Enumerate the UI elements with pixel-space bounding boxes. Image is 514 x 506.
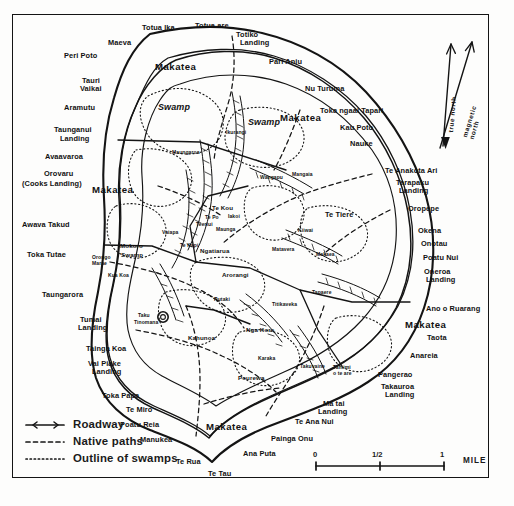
place-label: Landing: [385, 391, 414, 399]
place-label: Aramutu: [64, 104, 95, 112]
scale-tick-1: 1: [440, 450, 444, 459]
region-label: Makatea: [155, 62, 196, 72]
region-label: Makatea: [92, 185, 133, 195]
place-label: Nauke: [350, 140, 373, 148]
place-label: Te Tau: [208, 470, 231, 478]
place-label: Kua Koa: [108, 273, 129, 278]
place-label: Matavera: [272, 247, 294, 252]
place-label: Landing: [426, 276, 455, 284]
place-label: Te Miro: [126, 406, 152, 414]
place-label: Landing: [399, 187, 428, 195]
place-label: Toka Papa: [102, 392, 139, 400]
place-label: Taota: [427, 334, 447, 342]
place-label: Te Anakota Ari: [385, 167, 437, 175]
place-label: Ano o Ruarang: [426, 305, 480, 313]
legend-item-roadway: Roadway: [26, 415, 178, 432]
place-label: Maungaroa: [172, 150, 200, 155]
place-label: Ngatiarua: [200, 248, 229, 255]
scale-tick-half: 1/2: [372, 450, 383, 459]
place-label: Pari Aniu: [269, 58, 302, 66]
place-label: Tinomana: [134, 320, 158, 325]
place-label: Kahunoa: [188, 335, 215, 342]
place-label: Landing: [92, 368, 121, 376]
legend-label-roadway: Roadway: [73, 418, 124, 430]
place-label: Maunga: [216, 227, 236, 232]
place-label: Anareia: [410, 352, 438, 360]
region-label: Makatea: [206, 422, 247, 432]
legend-label-swamp-outline: Outline of swamps: [73, 452, 178, 464]
scale-bar-unit: MILE: [463, 456, 487, 465]
place-label: Landing: [318, 408, 347, 416]
place-label: Tapaere: [312, 290, 332, 295]
native-path-key-icon: [26, 435, 68, 447]
place-label: Teeriui: [196, 222, 213, 227]
place-label: Poatu Nui: [423, 254, 458, 262]
region-label: Swamp: [121, 252, 143, 259]
place-label: Awava Takud: [22, 221, 70, 229]
place-label: Pourewa: [238, 375, 265, 382]
region-label: Te Tiere: [325, 211, 353, 219]
place-label: Kau Poto: [340, 124, 373, 132]
map-legend: Roadway Native paths Outline of swamps: [26, 415, 178, 466]
region-label: Makatea: [405, 320, 446, 330]
place-label: Takuvaine: [300, 364, 325, 369]
place-label: (Cooks Landing): [22, 180, 82, 188]
place-label: Titikaveka: [272, 302, 297, 307]
roadway-key-icon: [26, 418, 68, 430]
place-label: Toka ngaai Tapari: [320, 107, 383, 115]
place-label: Painga Onu: [271, 435, 313, 443]
place-label: Taku: [138, 313, 150, 318]
place-label: Pangerao: [378, 371, 412, 379]
place-label: Nga Kore: [246, 327, 274, 334]
scale-tick-0: 0: [313, 450, 317, 459]
place-label: Landing: [78, 324, 107, 332]
legend-label-native-paths: Native paths: [73, 435, 143, 447]
swamp-outline-key-icon: [26, 452, 68, 464]
place-label: Ana Puta: [243, 450, 276, 458]
place-label: Kiiwai: [298, 228, 313, 233]
place-label: Mangaia: [292, 172, 313, 177]
place-label: Makaea: [316, 252, 335, 257]
place-label: Tainga Koa: [86, 345, 126, 353]
place-label: Karaka: [258, 356, 275, 361]
legend-item-swamp-outline: Outline of swamps: [26, 449, 178, 466]
place-label: Maeva: [108, 39, 131, 47]
scale-bar: 0 1/2 1: [313, 450, 459, 461]
legend-item-native-paths: Native paths: [26, 432, 178, 449]
place-label: Landing: [240, 39, 269, 47]
place-label: Rutaki: [214, 297, 230, 302]
place-label: Avaavaroa: [45, 153, 83, 161]
place-label: Mokoro: [120, 243, 143, 250]
place-label: Te Ana Nui: [295, 418, 334, 426]
place-label: Landing: [60, 135, 89, 143]
place-label: Onotau: [421, 240, 447, 248]
place-label: Marae: [92, 261, 107, 266]
place-label: Okena: [418, 227, 441, 235]
place-label: Totua are: [195, 22, 229, 30]
place-label: Te Po: [205, 215, 219, 220]
region-label: Swamp: [158, 103, 190, 112]
place-label: Taunganui: [54, 126, 92, 134]
place-label: Orovaru: [44, 170, 73, 178]
region-label: Makatea: [280, 113, 321, 123]
place-label: Vaikai: [80, 85, 102, 93]
place-label: o te are: [333, 371, 352, 376]
place-label: Peri Poto: [64, 52, 97, 60]
place-label: Taungarora: [42, 291, 83, 299]
place-label: Nu Turuma: [305, 85, 344, 93]
place-label: Te Rua: [176, 458, 201, 466]
place-label: Totua Ika: [142, 24, 175, 32]
region-label: Swamp: [248, 118, 280, 127]
place-label: Toka Tutae: [27, 251, 66, 259]
place-label: Vaiapa: [162, 230, 178, 235]
place-label: Ikurangi: [226, 130, 246, 135]
place-label: Iakoi: [228, 214, 240, 219]
place-label: Te Kapi: [180, 243, 198, 248]
place-label: Wangapu: [260, 175, 283, 180]
place-label: Te Kou: [212, 205, 233, 212]
place-label: Oropepe: [408, 205, 439, 213]
map-canvas: Totua IkaTotua areTotikoLandingMaevaPeri…: [0, 0, 514, 506]
place-label: Arorangi: [222, 272, 249, 279]
